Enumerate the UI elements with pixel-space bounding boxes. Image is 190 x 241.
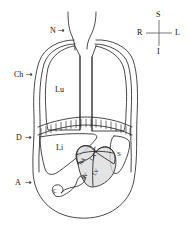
- heart-label-right-atrium: RA: [78, 157, 86, 165]
- callout-arrow-chest-wall: →: [26, 71, 33, 79]
- diaphragm-upper-arc: [38, 117, 132, 127]
- body-outline-inner: [39, 44, 75, 172]
- organ-label-lung: Lu: [55, 86, 64, 94]
- callout-arrow-abdomen: →: [25, 179, 32, 187]
- figure-canvas: N → Ch → D → A → Lu Li S C RA LA RV LV S…: [0, 0, 190, 241]
- neck-right-curve: [87, 12, 96, 49]
- lung-right: [92, 46, 127, 131]
- callout-label-chest-wall: Ch: [14, 71, 23, 79]
- callout-arrow-diaphragm: →: [25, 134, 32, 142]
- heart: [76, 145, 116, 187]
- callout-label-abdomen: A: [15, 179, 21, 187]
- heart-label-right-atrium-text: RA: [76, 156, 87, 167]
- organ-label-spleen: S: [117, 150, 121, 158]
- anatomy-diagram: [0, 0, 190, 241]
- callout-label-neck: N: [50, 27, 56, 35]
- callout-label-diaphragm: D: [16, 134, 22, 142]
- compass-label-superior: S: [156, 11, 160, 19]
- compass-label-right: R: [137, 29, 142, 37]
- callout-arrow-neck: →: [58, 27, 65, 35]
- heart-label-right-ventricle: RV: [81, 172, 88, 180]
- compass-label-left: L: [175, 29, 180, 37]
- compass-rose: [146, 20, 172, 46]
- compass-label-inferior: I: [157, 48, 160, 56]
- heart-label-left-ventricle: LV: [92, 168, 99, 176]
- organ-label-liver: Li: [56, 144, 63, 152]
- organ-label-stomach: C: [53, 187, 57, 195]
- heart-label-left-atrium: LA: [89, 153, 96, 161]
